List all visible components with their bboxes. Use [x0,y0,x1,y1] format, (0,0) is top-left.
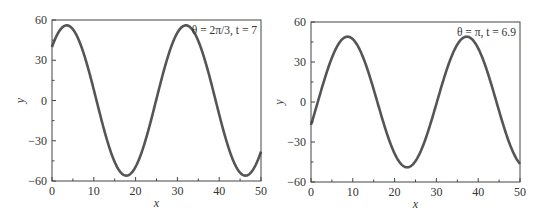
x-tick-label: 20 [130,184,142,198]
x-tick-label: 10 [88,184,100,198]
parameter-annotation: θ = π, t = 6.9 [457,26,516,39]
plot-left: 01020304050−60−3003060xyθ = 2π/3, t = 7 [0,0,272,221]
x-tick-label: 40 [472,185,484,199]
x-axis-label: x [412,197,419,211]
y-tick-label: −30 [28,134,47,148]
x-tick-label: 10 [347,185,359,199]
x-tick-label: 0 [308,185,314,199]
y-tick-label: −30 [287,135,306,149]
x-tick-label: 50 [514,185,526,199]
chart-left: 01020304050−60−3003060xyθ = 2π/3, t = 7 [0,0,272,221]
y-tick-label: 60 [35,13,47,27]
x-axis-label: x [153,196,160,210]
plot-right: 01020304050−60−3003060xyθ = π, t = 6.9 [272,0,545,221]
plot-frame [311,22,520,182]
parameter-annotation: θ = 2π/3, t = 7 [192,24,257,37]
x-tick-label: 30 [171,184,183,198]
y-tick-label: 30 [35,53,47,67]
y-tick-label: 60 [294,15,306,29]
chart-right: 01020304050−60−3003060xyθ = π, t = 6.9 [272,0,545,221]
x-tick-label: 20 [389,185,401,199]
x-tick-label: 50 [255,184,267,198]
series-line [52,25,261,175]
series-line [311,37,520,168]
y-tick-label: −60 [28,174,47,188]
y-tick-label: −60 [287,175,306,189]
y-tick-label: 0 [41,94,47,108]
y-axis-label: y [272,99,286,106]
x-tick-label: 0 [49,184,55,198]
y-axis-label: y [13,97,27,104]
y-tick-label: 30 [294,55,306,69]
x-tick-label: 30 [430,185,442,199]
y-tick-label: 0 [300,95,306,109]
x-tick-label: 40 [213,184,225,198]
